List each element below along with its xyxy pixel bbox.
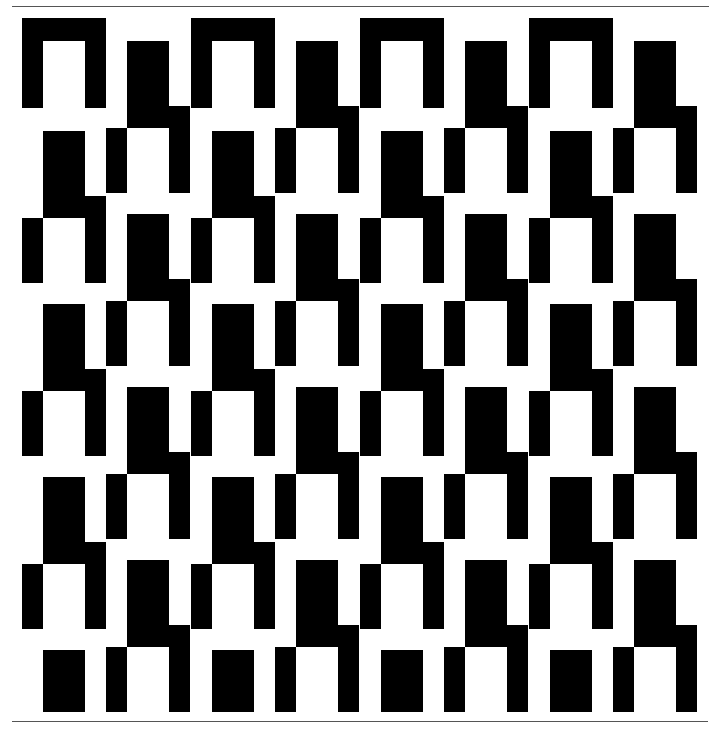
motif-left-leg [360, 564, 381, 629]
motif-left-leg [106, 301, 127, 366]
motif-left-leg [529, 391, 550, 456]
motif-right-leg [423, 542, 444, 629]
arch-right-leg [423, 18, 444, 108]
motif-left-leg [275, 301, 296, 366]
motif-block [212, 650, 254, 712]
motif-right-leg [423, 369, 444, 456]
motif-block [634, 560, 676, 647]
arch-right-leg [254, 18, 275, 108]
motif-left-leg [106, 128, 127, 193]
motif-block [381, 477, 423, 564]
motif-block [43, 304, 85, 391]
motif-right-leg [338, 106, 359, 193]
motif-block [634, 214, 676, 301]
motif-left-leg [444, 647, 465, 712]
motif-right-leg [85, 542, 106, 629]
motif-block [43, 650, 85, 712]
arch-right-leg [592, 18, 613, 108]
motif-right-leg [169, 106, 190, 193]
arch-left-leg [191, 18, 212, 108]
motif-right-leg [676, 106, 697, 193]
motif-block [550, 304, 592, 391]
motif-left-leg [613, 647, 634, 712]
arch-left-leg [360, 18, 381, 108]
motif-right-leg [254, 196, 275, 283]
motif-block [465, 41, 507, 128]
motif-right-leg [85, 196, 106, 283]
motif-block [127, 387, 169, 474]
motif-block [43, 477, 85, 564]
motif-right-leg [85, 369, 106, 456]
motif-block [550, 131, 592, 218]
motif-left-leg [444, 128, 465, 193]
motif-right-leg [676, 279, 697, 366]
motif-block [381, 304, 423, 391]
motif-left-leg [275, 474, 296, 539]
bottom-rule [12, 721, 708, 722]
motif-block [550, 650, 592, 712]
motif-right-leg [592, 196, 613, 283]
motif-left-leg [529, 218, 550, 283]
motif-right-leg [423, 196, 444, 283]
motif-left-leg [106, 474, 127, 539]
arch-right-leg [85, 18, 106, 108]
motif-block [296, 560, 338, 647]
motif-right-leg [169, 625, 190, 712]
motif-block [212, 304, 254, 391]
arch-left-leg [529, 18, 550, 108]
motif-block [465, 214, 507, 301]
motif-block [127, 214, 169, 301]
motif-left-leg [275, 128, 296, 193]
motif-block [127, 41, 169, 128]
motif-left-leg [191, 564, 212, 629]
motif-block [296, 387, 338, 474]
op-art-canvas [0, 0, 725, 730]
motif-block [381, 650, 423, 712]
motif-left-leg [275, 647, 296, 712]
motif-block [296, 214, 338, 301]
motif-right-leg [338, 279, 359, 366]
motif-right-leg [676, 625, 697, 712]
motif-left-leg [191, 391, 212, 456]
motif-left-leg [191, 218, 212, 283]
motif-left-leg [360, 218, 381, 283]
motif-block [634, 387, 676, 474]
motif-block [127, 560, 169, 647]
motif-right-leg [169, 452, 190, 539]
motif-left-leg [613, 474, 634, 539]
motif-left-leg [529, 564, 550, 629]
motif-left-leg [22, 218, 43, 283]
motif-right-leg [507, 106, 528, 193]
motif-left-leg [22, 391, 43, 456]
motif-right-leg [338, 625, 359, 712]
motif-block [212, 131, 254, 218]
motif-block [465, 560, 507, 647]
tessellation [0, 0, 725, 712]
motif-right-leg [254, 542, 275, 629]
motif-left-leg [106, 647, 127, 712]
motif-left-leg [444, 474, 465, 539]
motif-block [634, 41, 676, 128]
motif-left-leg [360, 391, 381, 456]
motif-block [296, 41, 338, 128]
motif-right-leg [592, 542, 613, 629]
motif-left-leg [613, 301, 634, 366]
motif-left-leg [22, 564, 43, 629]
motif-right-leg [338, 452, 359, 539]
motif-block [212, 477, 254, 564]
motif-block [465, 387, 507, 474]
motif-left-leg [613, 128, 634, 193]
motif-right-leg [507, 279, 528, 366]
motif-right-leg [169, 279, 190, 366]
motif-right-leg [592, 369, 613, 456]
motif-block [43, 131, 85, 218]
motif-right-leg [507, 452, 528, 539]
motif-right-leg [676, 452, 697, 539]
motif-block [381, 131, 423, 218]
motif-right-leg [507, 625, 528, 712]
motif-left-leg [444, 301, 465, 366]
motif-right-leg [254, 369, 275, 456]
arch-left-leg [22, 18, 43, 108]
motif-block [550, 477, 592, 564]
